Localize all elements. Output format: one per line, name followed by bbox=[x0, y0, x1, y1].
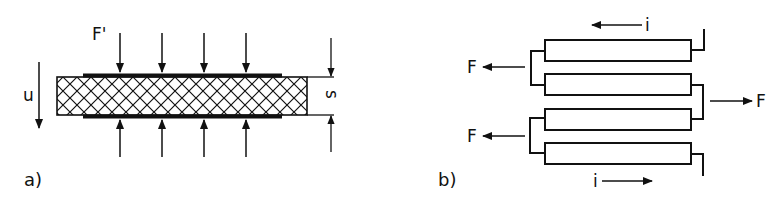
displacement-label: u bbox=[23, 85, 34, 105]
force-label-left-bottom: F bbox=[467, 126, 477, 146]
right-connections bbox=[691, 29, 704, 176]
piezo-block bbox=[57, 77, 307, 115]
force-label-left-top: F bbox=[467, 57, 477, 77]
force-label-right: F bbox=[756, 91, 766, 111]
figure-canvas: u F' s a) bbox=[0, 0, 779, 206]
panel-a-label: a) bbox=[24, 169, 42, 190]
current-label-bottom: i bbox=[593, 171, 598, 191]
panel-a: u F' s a) bbox=[23, 24, 342, 190]
stack-element-2 bbox=[545, 74, 691, 95]
panel-b-label: b) bbox=[438, 169, 456, 190]
thickness-label: s bbox=[322, 90, 342, 99]
bottom-force-arrows bbox=[120, 120, 246, 157]
panel-b: i F F F i b) bbox=[438, 15, 766, 191]
bottom-electrode bbox=[83, 115, 282, 119]
top-electrode bbox=[83, 74, 282, 78]
current-label-top: i bbox=[645, 15, 650, 35]
stack-element-4 bbox=[545, 143, 691, 164]
top-force-arrows bbox=[120, 33, 246, 72]
stack-element-3 bbox=[545, 109, 691, 130]
left-connections bbox=[530, 51, 545, 153]
force-label-f-prime: F' bbox=[92, 24, 106, 44]
stack-element-1 bbox=[545, 40, 691, 61]
stack-elements bbox=[545, 40, 691, 164]
